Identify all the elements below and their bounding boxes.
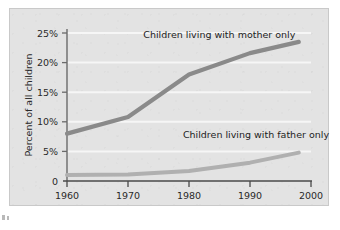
series-line-father xyxy=(67,153,299,175)
y-axis-title: Percent of all children xyxy=(23,53,34,156)
y-tick-label-0: 0 xyxy=(52,176,58,187)
x-axis-ticks xyxy=(67,181,311,187)
x-tick-label-1960: 1960 xyxy=(55,190,79,201)
x-tick-label-1980: 1980 xyxy=(177,190,201,201)
annotation-father-label: Children living with father only xyxy=(183,129,329,140)
x-tick-label-1990: 1990 xyxy=(238,190,262,201)
series-line-mother xyxy=(67,42,299,134)
y-tick-label-5: 5% xyxy=(43,146,58,157)
x-tick-label-2000: 2000 xyxy=(299,190,323,201)
x-tick-label-1970: 1970 xyxy=(116,190,140,201)
y-tick-label-20: 20% xyxy=(37,57,58,68)
annotation-mother-label: Children living with mother only xyxy=(143,29,295,40)
y-tick-label-10: 10% xyxy=(37,116,58,127)
y-tick-label-25: 25% xyxy=(37,28,58,39)
y-tick-label-15: 15% xyxy=(37,87,58,98)
figure-container: 25% 20% 15% 10% 5% 0 1960 1970 1980 1990… xyxy=(0,0,340,230)
line-chart: 25% 20% 15% 10% 5% 0 1960 1970 1980 1990… xyxy=(0,0,340,230)
